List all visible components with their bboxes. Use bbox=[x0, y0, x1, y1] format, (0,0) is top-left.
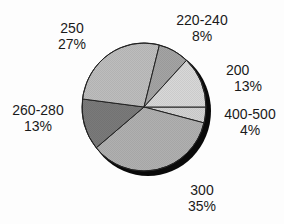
label-260-280: 260-280 13% bbox=[8, 102, 68, 134]
label-260-280-name: 260-280 bbox=[8, 102, 68, 118]
label-400-500-pct: 4% bbox=[220, 122, 280, 138]
label-200-name: 200 bbox=[224, 62, 268, 78]
label-250-pct: 27% bbox=[52, 36, 92, 52]
label-300: 300 35% bbox=[182, 182, 222, 214]
label-300-pct: 35% bbox=[182, 198, 222, 214]
label-200-pct: 13% bbox=[224, 78, 268, 94]
label-400-500-name: 400-500 bbox=[220, 106, 280, 122]
label-250-name: 250 bbox=[52, 20, 92, 36]
label-220-240: 220-240 8% bbox=[172, 12, 232, 44]
label-250: 250 27% bbox=[52, 20, 92, 52]
label-200: 200 13% bbox=[224, 62, 268, 94]
label-220-240-pct: 8% bbox=[172, 28, 232, 44]
label-300-name: 300 bbox=[182, 182, 222, 198]
label-220-240-name: 220-240 bbox=[172, 12, 232, 28]
pie-slices bbox=[82, 43, 206, 171]
label-400-500: 400-500 4% bbox=[220, 106, 280, 138]
label-260-280-pct: 13% bbox=[8, 118, 68, 134]
